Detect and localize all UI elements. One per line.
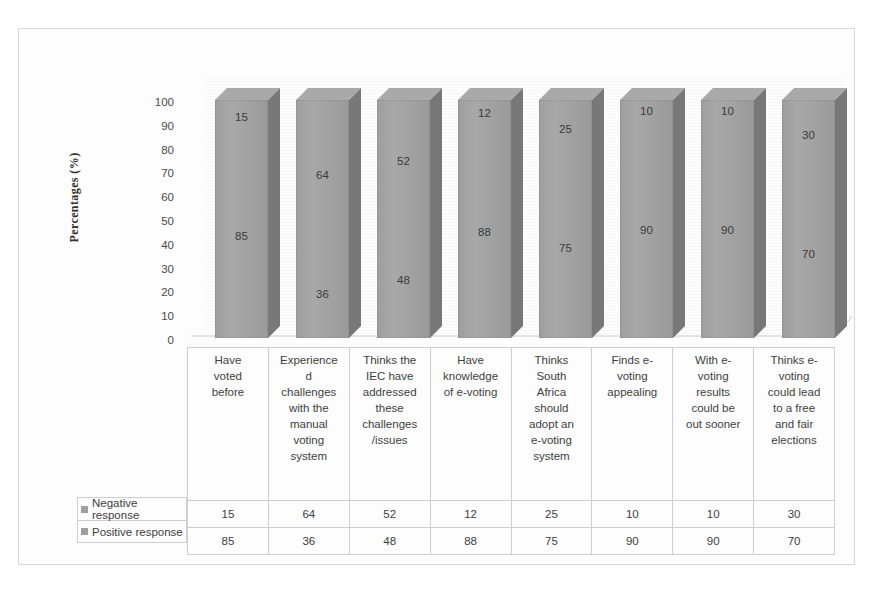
category-label-line: With e- (675, 352, 751, 368)
bar-value-negative: 25 (539, 123, 592, 135)
bar-side-face (349, 88, 361, 338)
table-cell-negative-value: 52 (349, 501, 430, 528)
bar-value-negative: 64 (296, 169, 349, 181)
table-cell-negative-value: 64 (268, 501, 349, 528)
bar-column: 6436 (296, 88, 349, 336)
category-label-line: appealing (594, 384, 670, 400)
category-label-line: knowledge (433, 368, 509, 384)
category-label-line: should (514, 400, 590, 416)
bar-front-face (377, 100, 430, 338)
category-label-line: voting (756, 368, 832, 384)
table-cell-negative-value: 12 (430, 501, 511, 528)
bar-column: 1585 (215, 88, 268, 336)
bar-side-face (268, 88, 280, 338)
category-label-line: voting (594, 368, 670, 384)
bar-front-face (296, 100, 349, 338)
category-label-line: Have (190, 352, 266, 368)
bar-front-face (620, 100, 673, 338)
bar-front-face (539, 100, 592, 338)
legend-item: Negative response (77, 497, 187, 520)
category-label-line: d (271, 368, 347, 384)
bar-side-face (511, 88, 523, 338)
category-label-line: system (271, 448, 347, 464)
bar-value-negative: 10 (620, 105, 673, 117)
category-label-line: results (675, 384, 751, 400)
legend-swatch-icon (81, 528, 88, 535)
y-axis-tick-10: 10 (138, 311, 174, 322)
category-label-line: with the (271, 400, 347, 416)
bar-value-negative: 15 (215, 111, 268, 123)
category-label-line: Finds e- (594, 352, 670, 368)
category-label-line: out sooner (675, 416, 751, 432)
bar-value-negative: 52 (377, 155, 430, 167)
bar-value-positive: 36 (296, 288, 349, 300)
table-row: 1564521225101030 (188, 501, 835, 528)
y-axis-title: Percentages (%) (67, 118, 82, 278)
bar-side-face (754, 88, 766, 338)
bar-side-face (673, 88, 685, 338)
category-label-line: manual (271, 416, 347, 432)
table-cell-negative-value: 25 (511, 501, 592, 528)
bar-value-positive: 70 (782, 248, 835, 260)
category-label-line: system (514, 448, 590, 464)
legend-swatch-icon (81, 506, 88, 513)
category-label-line: Thinks the (352, 352, 428, 368)
data-table: HavevotedbeforeExperiencedchallengeswith… (187, 347, 835, 555)
category-label-line: could lead (756, 384, 832, 400)
table-cell-positive-value: 48 (349, 528, 430, 555)
bar-value-negative: 12 (458, 107, 511, 119)
bar-value-positive: 85 (215, 230, 268, 242)
bar-column: 2575 (539, 88, 592, 336)
table-cell-positive-value: 90 (673, 528, 754, 555)
bar-value-positive: 75 (539, 242, 592, 254)
bar-value-positive: 90 (701, 224, 754, 236)
category-label-line: South (514, 368, 590, 384)
table-cell-category: With e-votingresultscould beout sooner (673, 348, 754, 501)
legend-item-label: Negative response (92, 497, 186, 521)
category-label-line: IEC have (352, 368, 428, 384)
table-cell-positive-value: 90 (592, 528, 673, 555)
plot-region: 15856436524812882575109010903070 (187, 78, 855, 345)
category-label-line: addressed (352, 384, 428, 400)
chart-3d-stacked-column: Percentages (%) 1009080706050403020100 1… (0, 0, 871, 593)
category-label-line: voting (271, 432, 347, 448)
bar-value-positive: 88 (458, 226, 511, 238)
table-cell-negative-value: 10 (673, 501, 754, 528)
bar-column: 1288 (458, 88, 511, 336)
table-row-categories: HavevotedbeforeExperiencedchallengeswith… (188, 348, 835, 501)
bar-column: 1090 (701, 88, 754, 336)
table-cell-category: Thinks e-votingcould leadto a freeand fa… (754, 348, 835, 501)
table-cell-category: ThinksSouthAfricashouldadopt ane-votings… (511, 348, 592, 501)
table-cell-category: Thinks theIEC haveaddressedthesechalleng… (349, 348, 430, 501)
y-axis-tick-0: 0 (138, 335, 174, 346)
category-label-line: /issues (352, 432, 428, 448)
table-row: 8536488875909070 (188, 528, 835, 555)
table-cell-positive-value: 75 (511, 528, 592, 555)
category-label-line: and fair (756, 416, 832, 432)
y-axis-tick-60: 60 (138, 192, 174, 203)
table-cell-negative-value: 15 (188, 501, 269, 528)
category-label-line: could be (675, 400, 751, 416)
category-label-line: Thinks e- (756, 352, 832, 368)
category-label-line: voting (675, 368, 751, 384)
category-label-line: of e-voting (433, 384, 509, 400)
category-label-line: before (190, 384, 266, 400)
y-axis-tick-50: 50 (138, 216, 174, 227)
y-axis-tick-20: 20 (138, 287, 174, 298)
table-cell-positive-value: 70 (754, 528, 835, 555)
table-cell-negative-value: 10 (592, 501, 673, 528)
bar-front-face (458, 100, 511, 338)
bar-value-negative: 10 (701, 105, 754, 117)
bar-front-face (215, 100, 268, 338)
y-axis-tick-80: 80 (138, 145, 174, 156)
table-cell-positive-value: 85 (188, 528, 269, 555)
legend-item-label: Positive response (92, 526, 183, 538)
y-axis-tick-labels: 1009080706050403020100 (138, 97, 174, 347)
bar-value-positive: 48 (377, 274, 430, 286)
y-axis-tick-40: 40 (138, 240, 174, 251)
category-label-line: Have (433, 352, 509, 368)
category-label-line: challenges (271, 384, 347, 400)
category-label-line: these (352, 400, 428, 416)
table-cell-negative-value: 30 (754, 501, 835, 528)
y-axis-tick-70: 70 (138, 168, 174, 179)
